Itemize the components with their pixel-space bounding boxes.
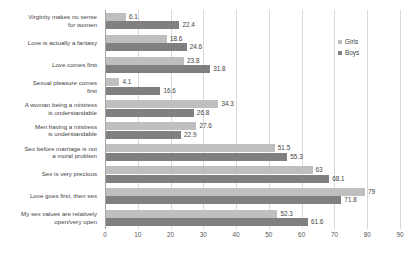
category-label-line: Love goes first, then sex bbox=[30, 192, 97, 200]
category-label-line: Love comes first bbox=[52, 61, 97, 69]
legend-swatch-icon bbox=[338, 40, 342, 44]
bar-value-label: 22.9 bbox=[184, 131, 196, 139]
legend-swatch-icon bbox=[338, 51, 342, 55]
category-label-line: Sex before marriage is not bbox=[24, 145, 97, 153]
category-label-line: open/very open bbox=[54, 218, 97, 226]
bar-girls bbox=[106, 144, 275, 152]
bar-value-label: 26.8 bbox=[197, 109, 209, 117]
category-label: Sexual pleasure comesfirst bbox=[0, 76, 97, 98]
x-tick-label: 50 bbox=[265, 231, 272, 238]
bar-value-label: 16.6 bbox=[163, 87, 175, 95]
category-label-line: first bbox=[87, 87, 97, 95]
bar-boys bbox=[106, 21, 179, 29]
bar-girls bbox=[106, 78, 119, 86]
bar-value-label: 24.6 bbox=[190, 43, 202, 51]
bar-girls bbox=[106, 100, 218, 108]
x-tick-label: 90 bbox=[396, 231, 403, 238]
bar-value-label: 63 bbox=[316, 166, 323, 174]
x-tick-label: 10 bbox=[134, 231, 141, 238]
category-label: Love is actually a fantasy bbox=[0, 32, 97, 54]
category-label: Virginity makes no sensefor women bbox=[0, 10, 97, 32]
legend-label: Girls bbox=[345, 38, 358, 45]
category-label-line: Sexual pleasure comes bbox=[33, 79, 97, 87]
category-label-line: My sex values are relatively bbox=[21, 210, 97, 218]
bar-value-label: 23.8 bbox=[187, 57, 199, 65]
bar-girls bbox=[106, 13, 126, 21]
category-label-line: is understandable bbox=[48, 109, 97, 117]
bar-value-label: 4.1 bbox=[122, 78, 131, 86]
bar-girls bbox=[106, 35, 167, 43]
bar-boys bbox=[106, 109, 194, 117]
bar-girls bbox=[106, 210, 277, 218]
category-label: My sex values are relativelyopen/very op… bbox=[0, 207, 97, 229]
bar-boys bbox=[106, 131, 181, 139]
category-label: Love comes first bbox=[0, 54, 97, 76]
category-label-line: a moral problem bbox=[52, 152, 97, 160]
bar-boys bbox=[106, 218, 308, 226]
category-label-line: Sex is very precious bbox=[42, 170, 97, 178]
bar-value-label: 55.3 bbox=[290, 153, 302, 161]
category-label: Sex is very precious bbox=[0, 163, 97, 185]
chart-legend: GirlsBoys bbox=[338, 36, 359, 58]
category-label: A woman being a mistressis understandabl… bbox=[0, 98, 97, 120]
category-label-line: Love is actually a fantasy bbox=[28, 39, 97, 47]
category-label-line: is understandable bbox=[48, 130, 97, 138]
bar-value-label: 52.3 bbox=[280, 210, 292, 218]
bar-value-label: 31.8 bbox=[213, 65, 225, 73]
category-label: Men having a mistressis understandable bbox=[0, 120, 97, 142]
x-tick-label: 20 bbox=[167, 231, 174, 238]
category-label: Love goes first, then sex bbox=[0, 185, 97, 207]
bar-girls bbox=[106, 166, 313, 174]
gridline bbox=[367, 10, 368, 229]
category-label-column: Virginity makes no sensefor womenLove is… bbox=[0, 10, 101, 229]
x-tick-label: 0 bbox=[103, 231, 107, 238]
bar-value-label: 18.6 bbox=[170, 35, 182, 43]
bar-value-label: 34.3 bbox=[221, 100, 233, 108]
bar-girls bbox=[106, 188, 365, 196]
bar-value-label: 68.1 bbox=[332, 175, 344, 183]
bar-value-label: 6.1 bbox=[129, 13, 138, 21]
gridline bbox=[400, 10, 401, 229]
legend-label: Boys bbox=[345, 49, 359, 56]
bar-girls bbox=[106, 57, 184, 65]
category-label: Sex before marriage is nota moral proble… bbox=[0, 141, 97, 163]
bar-boys bbox=[106, 175, 329, 183]
bar-value-label: 22.4 bbox=[182, 21, 194, 29]
bar-value-label: 61.6 bbox=[311, 218, 323, 226]
x-tick-label: 40 bbox=[233, 231, 240, 238]
bar-boys bbox=[106, 65, 210, 73]
bar-boys bbox=[106, 196, 341, 204]
x-axis-tick-labels: 0102030405060708090 bbox=[105, 231, 400, 245]
x-tick-label: 80 bbox=[364, 231, 371, 238]
category-label-line: A woman being a mistress bbox=[25, 101, 97, 109]
bar-value-label: 27.6 bbox=[199, 122, 211, 130]
x-tick-label: 70 bbox=[331, 231, 338, 238]
legend-item-boys[interactable]: Boys bbox=[338, 47, 359, 58]
legend-item-girls[interactable]: Girls bbox=[338, 36, 359, 47]
bar-boys bbox=[106, 43, 187, 51]
bar-boys bbox=[106, 153, 287, 161]
bar-value-label: 71.8 bbox=[344, 196, 356, 204]
bar-girls bbox=[106, 122, 196, 130]
category-label-line: for women bbox=[68, 21, 97, 29]
x-tick-label: 60 bbox=[298, 231, 305, 238]
bar-chart: Virginity makes no sensefor womenLove is… bbox=[0, 0, 418, 256]
category-label-line: Men having a mistress bbox=[35, 123, 97, 131]
bar-boys bbox=[106, 87, 160, 95]
category-label-line: Virginity makes no sense bbox=[28, 13, 97, 21]
bar-value-label: 79 bbox=[368, 188, 375, 196]
bar-value-label: 51.5 bbox=[278, 144, 290, 152]
x-tick-label: 30 bbox=[200, 231, 207, 238]
